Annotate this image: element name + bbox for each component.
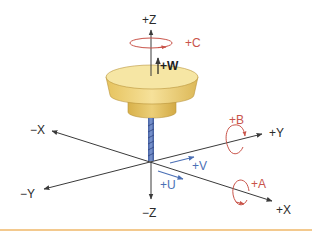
u-label: +U [160,179,176,191]
x-pos-label: +X [276,204,291,216]
y-pos-label: +Y [269,127,284,139]
v-label: +V [192,160,207,172]
axis-diagram-graphic [0,0,312,233]
axis-diagram: +Z −Z −X +X +Y −Y +C +B +A +V +U +W [0,0,312,233]
spindle [106,65,198,118]
y-neg-label: −Y [20,188,35,200]
tool [148,118,154,161]
divider-rule [0,229,312,231]
x-neg-label: −X [30,124,45,136]
z-neg-label: −Z [142,207,156,219]
a-rotation-label: +A [251,178,266,190]
v-arrow [170,157,194,163]
w-label: +W [160,60,178,72]
z-pos-label: +Z [142,14,156,26]
b-rotation-label: +B [229,114,244,126]
c-rotation-label: +C [185,37,201,49]
